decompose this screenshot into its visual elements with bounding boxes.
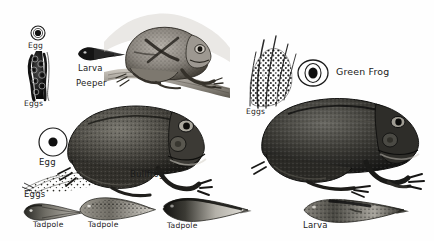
- tadpole-3-label: Tadpole: [167, 222, 198, 230]
- tadpole-3-figure: [160, 196, 252, 224]
- bullfrog-figure: [62, 100, 212, 204]
- tadpole-1-label: Tadpole: [33, 221, 64, 229]
- peeper-eggs-figure: [20, 50, 62, 102]
- peeper-frog-figure: [104, 8, 230, 100]
- peeper-egg-figure: [28, 24, 48, 42]
- peeper-larva-label: Larva: [78, 64, 103, 73]
- illustration-plate: Egg: [0, 0, 434, 241]
- bullfrog-eggs-label: Eggs: [24, 190, 45, 199]
- green-frog-name-label: Green Frog: [336, 67, 389, 76]
- tadpole-2-figure: [76, 195, 156, 223]
- green-frog-larva-label: Larva: [303, 221, 328, 230]
- bullfrog-name-label: Bullfrog: [130, 170, 164, 179]
- tadpole-2-label: Tadpole: [88, 221, 119, 229]
- peeper-eggs-label: Eggs: [24, 100, 43, 108]
- peeper-egg-label: Egg: [28, 42, 43, 50]
- green-frog-egg-figure: [296, 56, 330, 90]
- green-frog-figure: [258, 92, 434, 200]
- peeper-name-label: Peeper: [76, 79, 107, 88]
